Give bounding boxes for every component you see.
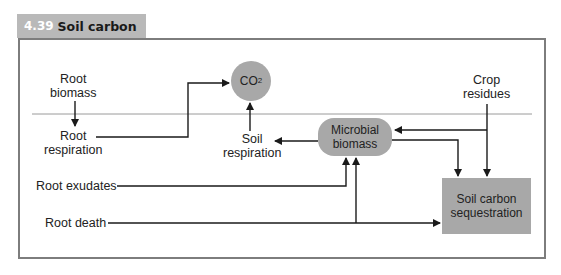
label-soil-respiration: Soil respiration [223, 132, 281, 160]
label-root-exudates: Root exudates [36, 179, 117, 193]
label-root-biomass: Root biomass [50, 72, 97, 100]
soil-carbon-sequestration-node: Soil carbon sequestration [442, 178, 531, 234]
co2-label: CO [240, 74, 258, 88]
arrow-root-respiration-to-co2 [96, 83, 229, 137]
microbial-biomass-node: Microbial biomass [318, 118, 392, 156]
label-root-death: Root death [45, 216, 106, 230]
arrow-root-exudates-to-microbial [117, 158, 346, 186]
arrow-microbial-to-soil-carbon [392, 140, 458, 176]
co2-subscript: 2 [258, 74, 262, 88]
co2-node: CO2 [231, 61, 271, 101]
label-crop-residues: Crop residues [463, 73, 510, 101]
label-root-respiration: Root respiration [44, 129, 102, 157]
